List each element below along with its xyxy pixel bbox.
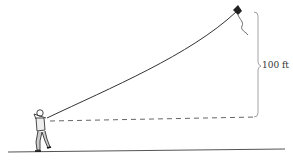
dashed-reference-line xyxy=(50,117,257,121)
height-bracket xyxy=(254,12,261,117)
ground-line xyxy=(8,149,285,152)
kite-diagram: 100 ft xyxy=(0,0,293,162)
kite-icon xyxy=(233,5,248,35)
kite-string xyxy=(47,12,236,118)
height-label: 100 ft xyxy=(262,60,289,70)
person-figure xyxy=(34,110,51,151)
